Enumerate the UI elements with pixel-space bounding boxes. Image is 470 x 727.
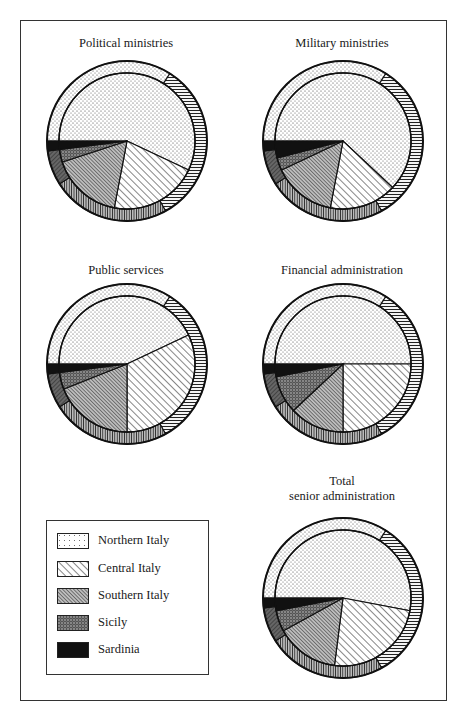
legend-item-south: Southern Italy xyxy=(57,587,169,604)
pie-political-ministries xyxy=(44,58,210,224)
chart-title-financial: Financial administration xyxy=(242,263,442,278)
legend-label: Central Italy xyxy=(98,561,161,576)
swatch-dots-icon xyxy=(57,533,89,549)
legend: Northern Italy Central Italy Southern It… xyxy=(46,520,209,675)
legend-label: Sicily xyxy=(98,615,127,630)
legend-item-north: Northern Italy xyxy=(57,532,169,549)
chart-title-total-line2: senior administration xyxy=(242,489,442,504)
legend-item-sicily: Sicily xyxy=(57,614,127,631)
outer-ring-segment xyxy=(47,364,60,374)
outer-ring-segment xyxy=(263,364,276,374)
swatch-black-icon xyxy=(57,642,89,658)
chart-title-public-services: Public services xyxy=(26,263,226,278)
chart-title-total-line1: Total xyxy=(242,474,442,489)
pie-financial-administration xyxy=(260,281,426,447)
legend-item-sardinia: Sardinia xyxy=(57,641,140,658)
pie-public-services xyxy=(44,281,210,447)
pie-total-senior-administration xyxy=(260,515,426,681)
legend-item-central: Central Italy xyxy=(57,560,161,577)
chart-title-political: Political ministries xyxy=(26,36,226,51)
swatch-diagonal-icon xyxy=(57,561,89,577)
outer-ring-segment xyxy=(263,598,276,608)
outer-ring-segment xyxy=(263,141,276,151)
legend-label: Sardinia xyxy=(98,642,140,657)
chart-title-military: Military ministries xyxy=(242,36,442,51)
outer-ring-segment xyxy=(47,141,60,151)
swatch-crosshatch-icon xyxy=(57,615,89,631)
pie-slice xyxy=(343,364,411,432)
legend-label: Northern Italy xyxy=(98,533,169,548)
pie-military-ministries xyxy=(260,58,426,224)
swatch-dense-diagonal-icon xyxy=(57,588,89,604)
legend-label: Southern Italy xyxy=(98,588,169,603)
